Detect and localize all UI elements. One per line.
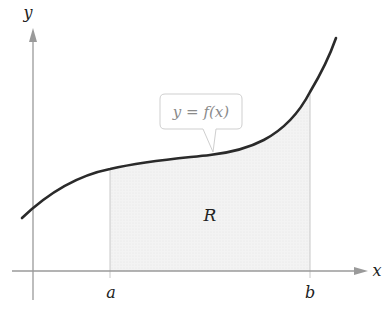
tick-label-a: a: [106, 283, 116, 302]
curve-label: y = f(x): [172, 103, 229, 121]
x-axis-label: x: [372, 261, 381, 280]
area-under-curve-diagram: y x a b R y = f(x): [0, 0, 386, 309]
y-axis-label: y: [22, 3, 33, 22]
curve-label-callout: y = f(x): [160, 94, 242, 152]
y-axis-arrow-icon: [29, 28, 37, 42]
tick-label-b: b: [305, 283, 315, 302]
y-axis: [29, 28, 37, 300]
region-label: R: [203, 205, 217, 225]
x-axis-arrow-icon: [354, 267, 368, 275]
